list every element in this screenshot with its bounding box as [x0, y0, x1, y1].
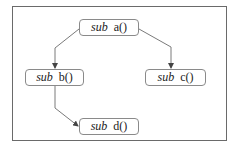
- edge-b-to-d: [55, 86, 78, 126]
- node-d-name: d(): [113, 119, 127, 134]
- edge-a-to-b: [55, 29, 79, 68]
- node-a-keyword: sub: [91, 20, 108, 35]
- node-a-name: a(): [114, 20, 127, 35]
- node-b: sub b(): [25, 69, 84, 86]
- node-b-name: b(): [59, 70, 73, 85]
- node-d: sub d(): [79, 118, 139, 135]
- node-a: sub a(): [79, 19, 139, 36]
- node-c-keyword: sub: [158, 70, 175, 85]
- node-b-keyword: sub: [36, 70, 53, 85]
- node-d-keyword: sub: [91, 119, 108, 134]
- node-c: sub c(): [145, 69, 206, 86]
- edge-a-to-c: [139, 29, 171, 68]
- node-c-name: c(): [180, 70, 193, 85]
